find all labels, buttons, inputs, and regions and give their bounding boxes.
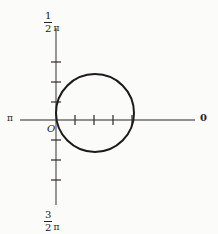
three-halves-pi-denominator: 2 — [44, 223, 52, 234]
three-halves-pi-numerator: 3 — [44, 210, 52, 221]
half-pi-denominator: 2 — [44, 24, 52, 35]
polar-curve-circle — [56, 74, 134, 152]
axis-label-three-halves-pi: 3 2 π — [44, 205, 59, 233]
pi-symbol: π — [53, 24, 59, 34]
pi-symbol: π — [53, 223, 59, 233]
polar-plot-figure: 1 2 π 3 2 π π 0 O — [0, 0, 218, 233]
axis-label-half-pi: 1 2 π — [44, 6, 59, 34]
plot-canvas — [0, 0, 218, 233]
axis-label-pi: π — [7, 114, 13, 123]
origin-label: O — [47, 124, 55, 134]
axis-label-zero: 0 — [200, 113, 207, 123]
half-pi-numerator: 1 — [44, 11, 52, 22]
